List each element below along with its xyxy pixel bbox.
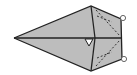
geometric-diagram — [0, 0, 137, 75]
circle-marker-top — [120, 15, 125, 20]
circle-marker-bottom — [121, 56, 126, 61]
